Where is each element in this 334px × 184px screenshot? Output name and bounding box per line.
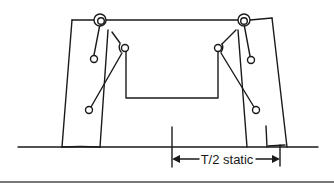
left-wheel <box>62 20 108 147</box>
right-subframe-joint-icon <box>215 45 222 52</box>
right-wheel <box>238 18 287 147</box>
left-subframe-joint-icon <box>122 45 129 52</box>
central-subframe <box>126 52 218 98</box>
left-subframe-joint-arc <box>119 44 121 52</box>
left-upper-joint-icon <box>91 56 98 63</box>
left-lower-joint-icon <box>86 107 93 114</box>
left-arrowhead-icon <box>172 155 180 163</box>
right-lower-joint-icon <box>253 107 260 114</box>
left-top-pivot-inner-icon <box>98 18 105 25</box>
right-upper-joint-icon <box>248 57 255 64</box>
right-top-pivot-inner-icon <box>241 18 248 25</box>
dimension-label: T/2 static <box>201 152 254 167</box>
right-arrowhead-icon <box>272 155 280 163</box>
right-linkage <box>221 24 254 107</box>
suspension-diagram: T/2 static <box>0 0 334 184</box>
left-linkage <box>91 24 122 107</box>
